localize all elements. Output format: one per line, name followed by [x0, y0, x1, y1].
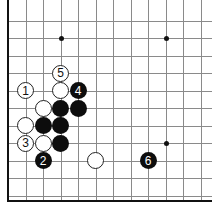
grid-line-horizontal	[8, 56, 212, 57]
white-stone	[35, 100, 52, 117]
white-stone	[52, 82, 69, 99]
white-stone	[17, 117, 34, 134]
go-board: 154326	[0, 0, 217, 207]
black-stone	[52, 100, 69, 117]
star-point	[164, 141, 169, 146]
star-point	[59, 36, 64, 41]
grid-line-vertical	[131, 0, 132, 200]
grid-line-vertical	[96, 0, 97, 200]
grid-line-vertical	[113, 0, 114, 200]
black-stone	[52, 135, 69, 152]
grid-line-vertical	[201, 0, 202, 200]
grid-line-vertical	[183, 0, 184, 200]
grid-line-horizontal	[8, 21, 212, 22]
white-stone-move-1: 1	[17, 82, 34, 99]
grid-line-horizontal	[8, 73, 212, 74]
white-stone	[35, 135, 52, 152]
grid-line-horizontal	[8, 91, 212, 92]
grid-line-horizontal	[8, 178, 212, 179]
white-stone-move-3: 3	[17, 135, 34, 152]
grid-line-vertical	[26, 0, 27, 200]
white-stone-move-5: 5	[52, 65, 69, 82]
black-stone	[52, 117, 69, 134]
black-stone	[35, 117, 52, 134]
board-edge-left	[7, 0, 9, 201]
black-stone-move-4: 4	[70, 82, 87, 99]
grid-line-horizontal	[8, 196, 212, 197]
grid-line-horizontal	[8, 38, 212, 39]
white-stone	[87, 152, 104, 169]
black-stone-move-2: 2	[35, 152, 52, 169]
black-stone	[70, 100, 87, 117]
grid-line-vertical	[148, 0, 149, 200]
grid-line-vertical	[166, 0, 167, 200]
black-stone-move-6: 6	[140, 152, 157, 169]
board-edge-bottom	[7, 200, 212, 202]
star-point	[164, 36, 169, 41]
